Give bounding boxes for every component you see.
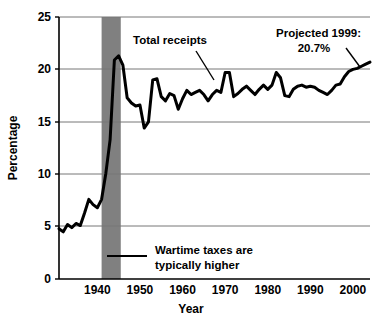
x-tick-label-2000: 2000 — [340, 283, 367, 297]
y-axis-title: Percentage — [6, 115, 20, 180]
x-tick-label-1990: 1990 — [297, 283, 324, 297]
y-tick-label-25: 25 — [38, 10, 52, 24]
x-tick-labels: 1940 1950 1960 1970 1980 1990 2000 — [84, 283, 367, 297]
projected-label-line1: Projected 1999: — [276, 27, 361, 39]
projected-label-line2: 20.7% — [298, 42, 331, 54]
y-tick-labels: 25 20 15 10 5 0 — [38, 10, 52, 286]
x-tick-label-1940: 1940 — [84, 283, 111, 297]
y-tick-label-20: 20 — [38, 62, 52, 76]
y-tick-label-15: 15 — [38, 115, 52, 129]
chart-figure: 25 20 15 10 5 0 1940 1950 1960 1970 1980… — [0, 0, 382, 322]
y-tick-label-10: 10 — [38, 167, 52, 181]
wartime-label-line1: Wartime taxes are — [155, 244, 253, 256]
wartime-label-line2: typically higher — [155, 259, 240, 271]
x-tick-label-1960: 1960 — [169, 283, 196, 297]
y-tick-label-0: 0 — [44, 272, 51, 286]
x-tick-label-1980: 1980 — [254, 283, 281, 297]
x-axis-title: Year — [178, 302, 204, 316]
chart-canvas: 25 20 15 10 5 0 1940 1950 1960 1970 1980… — [0, 0, 382, 322]
x-tick-label-1970: 1970 — [212, 283, 239, 297]
x-tick-label-1950: 1950 — [127, 283, 154, 297]
y-tick-label-5: 5 — [44, 219, 51, 233]
total-receipts-label: Total receipts — [133, 34, 207, 46]
